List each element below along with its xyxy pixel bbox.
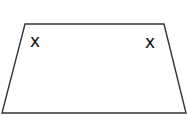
trapezoid-diagram: x x (0, 0, 187, 134)
angle-mark-top-left: x (30, 31, 40, 51)
angle-mark-top-right: x (145, 32, 155, 52)
